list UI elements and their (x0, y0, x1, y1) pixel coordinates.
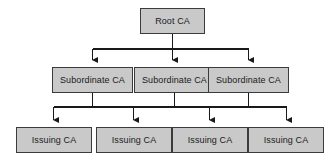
node-subordinate-ca-1[interactable]: Subordinate CA (52, 67, 133, 93)
node-issuing-ca-3[interactable]: Issuing CA (172, 127, 248, 153)
node-issuing-ca-2[interactable]: Issuing CA (96, 127, 172, 153)
node-issuing-ca-1[interactable]: Issuing CA (16, 127, 92, 153)
node-label: Issuing CA (188, 135, 233, 144)
diagram-canvas: Root CA Subordinate CA Subordinate CA Su… (0, 0, 335, 164)
node-label: Root CA (155, 16, 190, 25)
node-label: Subordinate CA (60, 75, 125, 84)
node-subordinate-ca-2[interactable]: Subordinate CA (134, 67, 215, 93)
node-issuing-ca-4[interactable]: Issuing CA (248, 127, 324, 153)
node-label: Issuing CA (32, 135, 77, 144)
node-label: Subordinate CA (216, 75, 281, 84)
node-label: Subordinate CA (142, 75, 207, 84)
node-label: Issuing CA (112, 135, 157, 144)
node-label: Issuing CA (264, 135, 309, 144)
node-root-ca[interactable]: Root CA (140, 8, 205, 34)
node-subordinate-ca-3[interactable]: Subordinate CA (208, 67, 289, 93)
